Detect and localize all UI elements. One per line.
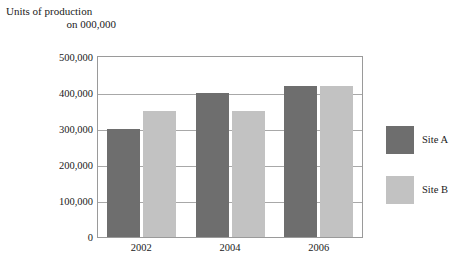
legend-swatch-icon	[386, 176, 414, 204]
chart-legend: Site ASite B	[386, 126, 464, 226]
y-axis-tick-label: 300,000	[1, 124, 93, 135]
chart-title-line-2: on 000,000	[6, 18, 116, 31]
chart-figure: Units of production on 000,000 0100,0002…	[0, 0, 467, 267]
legend-item: Site B	[386, 176, 464, 204]
x-axis-tick-label: 2002	[131, 242, 152, 253]
chart-title-line-1: Units of production	[6, 5, 116, 18]
legend-item: Site A	[386, 126, 464, 154]
x-axis: 200220042006	[97, 242, 363, 258]
y-axis-tick-label: 0	[1, 232, 93, 243]
gridline	[98, 166, 362, 167]
x-axis-tick-label: 2006	[308, 242, 329, 253]
plot-area	[97, 56, 363, 238]
y-axis-tick-label: 500,000	[1, 52, 93, 63]
gridline	[98, 202, 362, 203]
legend-label: Site A	[422, 134, 448, 145]
y-axis-tick-label: 200,000	[1, 160, 93, 171]
legend-label: Site B	[422, 184, 448, 195]
x-axis-tick-label: 2004	[220, 242, 241, 253]
y-axis-tick-label: 400,000	[1, 88, 93, 99]
chart-title: Units of production on 000,000	[6, 5, 116, 31]
gridline	[98, 94, 362, 95]
gridline	[98, 130, 362, 131]
legend-swatch-icon	[386, 126, 414, 154]
y-axis: 0100,000200,000300,000400,000500,000	[0, 56, 93, 238]
y-axis-tick-label: 100,000	[1, 196, 93, 207]
